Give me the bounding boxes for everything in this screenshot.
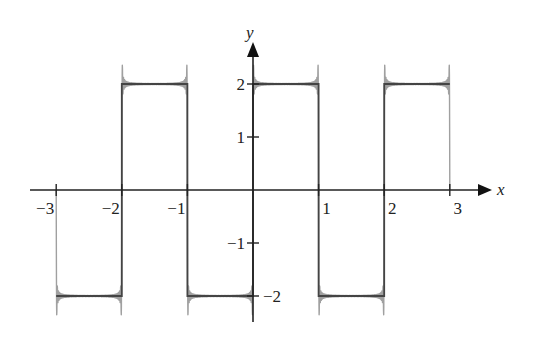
y-tick-label: 2 bbox=[237, 75, 246, 94]
x-tick-label: 1 bbox=[322, 199, 331, 218]
y-tick-label: 1 bbox=[237, 128, 246, 147]
x-tick-label: −3 bbox=[36, 199, 54, 218]
x-axis-arrow-icon bbox=[478, 184, 492, 196]
square-wave-plot: −3−2−1123 21−1−2 x y bbox=[0, 0, 536, 340]
y-tick-label: −2 bbox=[263, 287, 281, 306]
y-axis-label: y bbox=[244, 23, 254, 42]
x-tick-label: 2 bbox=[388, 199, 397, 218]
chart-root: −3−2−1123 21−1−2 x y bbox=[0, 0, 536, 340]
x-tick-label: −1 bbox=[167, 199, 185, 218]
x-axis-label: x bbox=[496, 180, 505, 199]
y-axis-arrow-icon bbox=[247, 42, 259, 57]
y-tick-label: −1 bbox=[227, 234, 245, 253]
x-axis bbox=[30, 184, 492, 196]
x-tick-label: 3 bbox=[454, 199, 463, 218]
x-tick-label: −2 bbox=[102, 199, 120, 218]
x-ticks: −3−2−1123 bbox=[36, 184, 462, 218]
